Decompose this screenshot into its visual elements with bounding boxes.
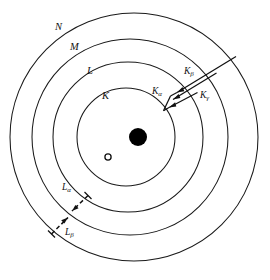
k-beta-line bbox=[173, 73, 217, 100]
transition-l-alpha bbox=[72, 196, 88, 212]
atomic-shell-diagram: N M L K Kα Kβ Kγ Lα Lβ bbox=[0, 0, 270, 280]
shell-diagram-canvas: N M L K Kα Kβ Kγ Lα Lβ bbox=[0, 0, 270, 280]
shell-label-m: M bbox=[69, 41, 80, 52]
label-k-beta: Kβ bbox=[183, 66, 194, 78]
shell-circle-k bbox=[77, 88, 175, 186]
nucleus bbox=[129, 128, 147, 146]
shell-label-n: N bbox=[54, 21, 63, 32]
label-k-gamma: Kγ bbox=[199, 90, 209, 102]
transition-k-beta bbox=[173, 73, 217, 100]
electron-vacancy-icon bbox=[105, 154, 111, 160]
k-gamma-arrowhead bbox=[177, 87, 184, 93]
shell-label-k: K bbox=[101, 90, 110, 101]
label-l-beta: Lβ bbox=[64, 227, 74, 239]
shell-circle-l bbox=[53, 62, 203, 212]
k-bundle-outer-edge bbox=[171, 93, 178, 97]
k-alpha-arrowhead bbox=[169, 102, 176, 107]
shell-label-l: L bbox=[86, 65, 93, 76]
